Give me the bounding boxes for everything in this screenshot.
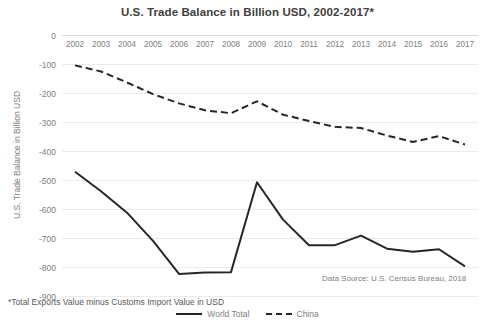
legend-item-china[interactable]: China [266,309,319,319]
legend-label: World Total [207,309,249,319]
data-source-note: Data Source: U.S. Census Bureau, 2018 [322,274,466,283]
series-line-china [75,65,465,144]
footnote-text: *Total Exports Value minus Customs Impor… [8,297,224,307]
legend-item-world-total[interactable]: World Total [176,309,249,319]
trade-balance-line-chart: U.S. Trade Balance in Billion USD, 2002-… [0,0,495,323]
legend-swatch-solid-line-icon [176,313,202,315]
series-line-world-total [75,172,465,274]
legend-label: China [297,309,319,319]
chart-legend: World TotalChina [0,309,495,319]
legend-swatch-dashed-line-icon [266,313,292,315]
